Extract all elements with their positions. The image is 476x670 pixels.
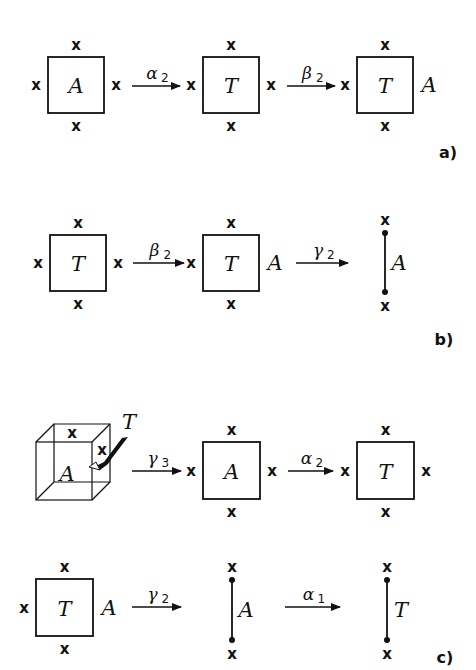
arrow-operator: γ bbox=[313, 240, 324, 260]
segment-bottom-mark: x bbox=[380, 297, 390, 315]
segment-top-dot bbox=[382, 230, 388, 236]
bottom-mark: x bbox=[226, 295, 236, 313]
segment-bottom-mark: x bbox=[382, 645, 392, 663]
top-mark: x bbox=[227, 421, 237, 439]
transition-arrow: γ3 bbox=[132, 448, 181, 471]
cube-edge bbox=[36, 482, 54, 500]
square-inside-label: T bbox=[378, 74, 394, 98]
left-mark: x bbox=[33, 254, 43, 272]
segment-top-mark: x bbox=[380, 211, 390, 229]
bottom-mark: x bbox=[226, 117, 236, 135]
right-mark: x bbox=[266, 76, 276, 94]
arrow-subscript: 2 bbox=[162, 592, 170, 606]
square-inside-label: T bbox=[71, 252, 87, 276]
cube-node: AxxT bbox=[36, 410, 138, 500]
square-inside-label: A bbox=[222, 460, 239, 484]
segment-node: xxA bbox=[380, 211, 406, 315]
arrow-subscript: 1 bbox=[318, 592, 326, 606]
segment-top-dot bbox=[229, 577, 235, 583]
cube-right-mark: x bbox=[97, 441, 107, 459]
top-mark: x bbox=[226, 214, 236, 232]
square-node: TxxxA bbox=[186, 214, 282, 313]
cube-inside-label: A bbox=[57, 462, 74, 486]
left-mark: x bbox=[340, 76, 350, 94]
transition-arrow: β2 bbox=[133, 240, 184, 263]
segment-top-mark: x bbox=[227, 558, 237, 576]
transition-arrow: α1 bbox=[285, 584, 340, 607]
square-inside-label: T bbox=[224, 74, 240, 98]
segment-label: A bbox=[389, 251, 406, 275]
segment-bottom-dot bbox=[382, 289, 388, 295]
left-mark: x bbox=[186, 254, 196, 272]
bottom-mark: x bbox=[380, 117, 390, 135]
segment-top-mark: x bbox=[382, 558, 392, 576]
bottom-mark: x bbox=[73, 295, 83, 313]
arrow-operator: γ bbox=[147, 584, 158, 604]
bottom-mark: x bbox=[60, 640, 70, 658]
arrow-subscript: 3 bbox=[162, 456, 170, 470]
segment-label: A bbox=[236, 598, 253, 622]
arrow-operator: β bbox=[301, 63, 312, 83]
left-mark: x bbox=[340, 462, 350, 480]
panel-label-c: c) bbox=[437, 648, 454, 667]
square-node: Txxxx bbox=[33, 214, 123, 313]
square-inside-label: A bbox=[66, 74, 83, 98]
right-mark: A bbox=[265, 251, 282, 275]
top-mark: x bbox=[226, 36, 236, 54]
segment-label: T bbox=[394, 598, 410, 622]
transition-arrow: γ2 bbox=[296, 240, 348, 263]
transition-arrow: α2 bbox=[132, 63, 180, 86]
cube-edge bbox=[92, 482, 110, 500]
arrow-operator: α bbox=[301, 448, 313, 468]
arrow-subscript: 2 bbox=[164, 248, 172, 262]
top-mark: x bbox=[73, 214, 83, 232]
left-mark: x bbox=[186, 462, 196, 480]
arrow-subscript: 2 bbox=[327, 248, 335, 262]
top-mark: x bbox=[60, 558, 70, 576]
bottom-mark: x bbox=[381, 503, 391, 521]
arrow-operator: α bbox=[146, 63, 158, 83]
segment-node: xxT bbox=[382, 558, 410, 663]
top-mark: x bbox=[380, 36, 390, 54]
cube-edge bbox=[36, 424, 54, 442]
panel-label-a: a) bbox=[439, 143, 457, 162]
left-mark: x bbox=[19, 599, 29, 617]
right-mark: A bbox=[99, 596, 116, 620]
top-mark: x bbox=[71, 36, 81, 54]
square-node: TxxxA bbox=[19, 558, 116, 658]
cube-top-mark: x bbox=[67, 424, 77, 442]
left-mark: x bbox=[186, 76, 196, 94]
square-node: Txxxx bbox=[186, 36, 276, 135]
transition-arrow: β2 bbox=[287, 63, 335, 86]
bottom-mark: x bbox=[71, 117, 81, 135]
square-node: Txxxx bbox=[340, 421, 431, 521]
segment-node: xxA bbox=[227, 558, 253, 663]
square-inside-label: T bbox=[378, 460, 394, 484]
right-mark: x bbox=[111, 76, 121, 94]
transition-arrow: α2 bbox=[288, 448, 333, 471]
arrow-operator: β bbox=[149, 240, 160, 260]
square-node: TxxxA bbox=[340, 36, 436, 135]
arrow-subscript: 2 bbox=[316, 456, 324, 470]
right-mark: x bbox=[421, 462, 431, 480]
square-node: Axxxx bbox=[186, 421, 277, 521]
bottom-mark: x bbox=[227, 503, 237, 521]
cube-edge bbox=[92, 424, 110, 442]
arrow-subscript: 2 bbox=[316, 71, 324, 85]
right-mark: A bbox=[419, 73, 436, 97]
right-mark: x bbox=[113, 254, 123, 272]
transition-arrow: γ2 bbox=[132, 584, 181, 607]
left-mark: x bbox=[31, 76, 41, 94]
segment-bottom-mark: x bbox=[227, 645, 237, 663]
square-node: Axxxx bbox=[31, 36, 121, 135]
square-inside-label: T bbox=[224, 252, 240, 276]
arrow-operator: γ bbox=[147, 448, 158, 468]
segment-bottom-dot bbox=[384, 637, 390, 643]
arrow-subscript: 2 bbox=[161, 71, 169, 85]
square-inside-label: T bbox=[57, 597, 73, 621]
panel-label-b: b) bbox=[435, 330, 454, 349]
right-mark: x bbox=[267, 462, 277, 480]
segment-bottom-dot bbox=[229, 637, 235, 643]
pointer-arrow-head bbox=[89, 462, 100, 470]
pointer-label: T bbox=[122, 410, 138, 434]
